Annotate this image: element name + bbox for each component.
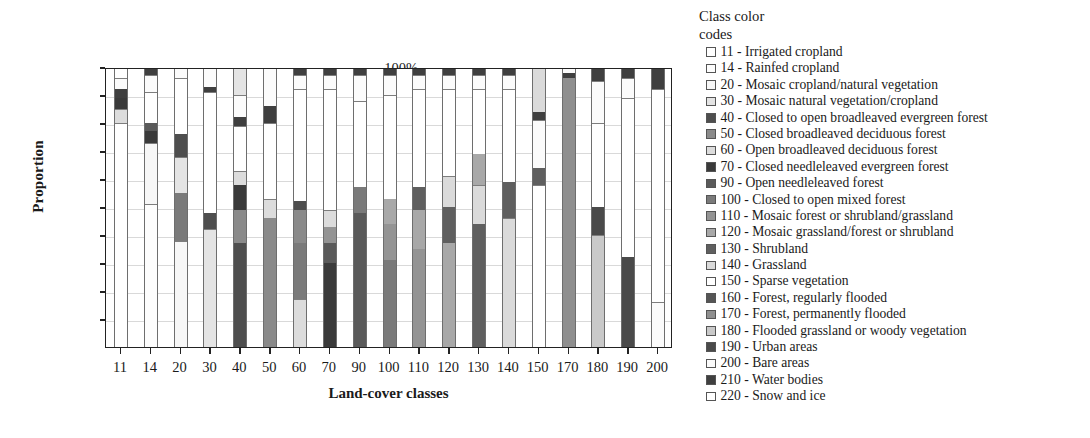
bar-segment (354, 69, 366, 75)
legend-item-label: 140 - Grassland (721, 257, 807, 273)
legend-swatch-icon (706, 326, 716, 336)
stacked-bar (412, 69, 426, 347)
legend-item-label: 190 - Urban areas (721, 339, 818, 355)
bar-segment (234, 126, 246, 171)
legend-swatch-icon (706, 80, 716, 90)
bar-segment (503, 89, 515, 181)
stacked-bar (621, 69, 635, 347)
legend-item-label: 130 - Shrubland (721, 241, 809, 257)
bar-segment (443, 75, 455, 89)
legend-swatch-icon (706, 162, 716, 172)
legend-item: 220 - Snow and ice (697, 388, 1087, 404)
legend-item-label: 14 - Rainfed cropland (721, 60, 840, 76)
bar-segment (145, 92, 157, 123)
legend-item: 60 - Open broadleaved deciduous forest (697, 142, 1087, 158)
bar-segment (145, 131, 157, 142)
bar-segment (115, 78, 127, 89)
bar-segment (204, 69, 216, 87)
bar-segment (234, 95, 246, 117)
stacked-bar (383, 69, 397, 347)
legend-item: 200 - Bare areas (697, 355, 1087, 371)
bar-segment (443, 243, 455, 347)
stacked-bar (442, 69, 456, 347)
bar-segment (384, 224, 396, 260)
x-axis-tick-mark (597, 348, 598, 354)
bar-segment (503, 69, 515, 75)
bar-segment (563, 69, 575, 73)
legend-item: 190 - Urban areas (697, 339, 1087, 355)
legend-item-label: 110 - Mosaic forest or shrubland/grassla… (721, 208, 953, 224)
x-axis-tick-mark (269, 348, 270, 354)
bar-segment (354, 101, 366, 188)
legend-item-label: 30 - Mosaic natural vegetation/cropland (721, 93, 938, 109)
bar-segment (145, 123, 157, 131)
stacked-bar (174, 69, 188, 347)
legend-item-label: 210 - Water bodies (721, 372, 823, 388)
bar-segment (473, 75, 485, 89)
y-axis-tick-mark (100, 263, 105, 264)
bar-segment (264, 199, 276, 219)
legend-swatch-icon (706, 211, 716, 221)
bar-segment (264, 106, 276, 123)
bar-segment (473, 224, 485, 347)
stacked-bar (144, 69, 158, 347)
bar-segment (592, 207, 604, 235)
bar-segment (473, 154, 485, 185)
bar-segment (234, 171, 246, 185)
bar-segment (294, 243, 306, 299)
bar-segment (145, 75, 157, 92)
bar-segment (384, 69, 396, 75)
bar-segment (234, 243, 246, 347)
legend-item: 210 - Water bodies (697, 372, 1087, 388)
stacked-bar (323, 69, 337, 347)
legend-item-label: 40 - Closed to open broadleaved evergree… (721, 110, 988, 126)
x-axis-tick-mark (538, 348, 539, 354)
x-axis-tick-mark (418, 348, 419, 354)
bar-segment (413, 89, 425, 187)
legend-item: 140 - Grassland (697, 257, 1087, 273)
bar-segment (503, 218, 515, 347)
bar-segment (175, 134, 187, 156)
x-axis-tick-mark (209, 348, 210, 354)
legend-item: 170 - Forest, permanently flooded (697, 306, 1087, 322)
bar-segment (294, 201, 306, 209)
x-axis-tick-mark (568, 348, 569, 354)
x-axis-tick-mark (478, 348, 479, 354)
bar-segment (413, 249, 425, 347)
legend-item-label: 120 - Mosaic grassland/forest or shrubla… (721, 224, 954, 240)
legend-item-label: 200 - Bare areas (721, 355, 810, 371)
bar-segment (175, 193, 187, 241)
x-axis-tick-mark (359, 348, 360, 354)
x-axis-title: Land-cover classes (105, 385, 672, 402)
bar-segment (145, 204, 157, 347)
legend-item: 90 - Open needleleaved forest (697, 175, 1087, 191)
legend-item-label: 150 - Sparse vegetation (721, 273, 849, 289)
x-axis-tick-mark (150, 348, 151, 354)
legend-swatch-icon (706, 375, 716, 385)
bar-segment (115, 98, 127, 109)
bar-segment (264, 69, 276, 106)
x-axis-tick-mark (120, 348, 121, 354)
y-axis-tick-mark (100, 151, 105, 152)
bar-segment (204, 87, 216, 93)
bar-segment (264, 218, 276, 347)
bar-segment (413, 210, 425, 249)
legend-item: 110 - Mosaic forest or shrubland/grassla… (697, 208, 1087, 224)
legend-item: 40 - Closed to open broadleaved evergree… (697, 110, 1087, 126)
bar-segment (324, 69, 336, 75)
legend-item: 160 - Forest, regularly flooded (697, 290, 1087, 306)
bar-segment (324, 210, 336, 227)
stacked-bar (114, 69, 128, 347)
bar-segment (175, 69, 187, 78)
legend-item: 20 - Mosaic cropland/natural vegetation (697, 77, 1087, 93)
legend-item-label: 160 - Forest, regularly flooded (721, 290, 887, 306)
y-axis-title: Proportion (30, 77, 47, 277)
legend-swatch-icon (706, 261, 716, 271)
bar-segment (384, 75, 396, 95)
legend-swatch-icon (706, 392, 716, 402)
bar-segment (622, 69, 634, 78)
bar-segment (175, 157, 187, 193)
bar-segment (234, 69, 246, 95)
bar-segment (145, 143, 157, 205)
bar-segment (413, 69, 425, 75)
